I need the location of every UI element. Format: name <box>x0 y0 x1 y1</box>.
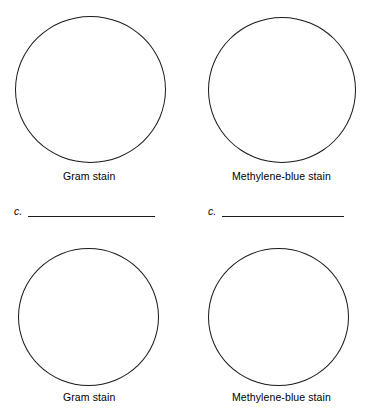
stain-worksheet: Gram stain Methylene-blue stain c. c. Gr… <box>0 0 372 408</box>
answer-label-left: c. <box>14 205 22 218</box>
specimen-circle-top-right[interactable] <box>208 17 356 163</box>
stain-caption-bottom-left: Gram stain <box>63 391 115 403</box>
answer-blank-left[interactable] <box>28 216 155 217</box>
answer-label-right: c. <box>208 205 216 218</box>
stain-caption-top-right: Methylene-blue stain <box>232 170 331 182</box>
specimen-circle-bottom-right[interactable] <box>208 248 349 386</box>
specimen-circle-top-left[interactable] <box>15 16 166 163</box>
answer-row-left: c. <box>14 202 155 218</box>
stain-caption-top-left: Gram stain <box>63 170 115 182</box>
stain-caption-bottom-right: Methylene-blue stain <box>232 391 331 403</box>
answer-blank-right[interactable] <box>222 216 344 217</box>
answer-row-right: c. <box>208 202 344 218</box>
specimen-circle-bottom-left[interactable] <box>18 248 159 386</box>
